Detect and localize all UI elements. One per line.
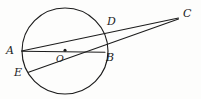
figure-canvas xyxy=(0,0,201,99)
point-label-a: A xyxy=(6,45,14,56)
center-point-dot xyxy=(64,49,67,52)
geometry-figure: A B C D E O xyxy=(0,0,201,99)
point-label-o: O xyxy=(56,54,64,64)
point-label-d: D xyxy=(107,16,116,27)
segment-ebc-secant xyxy=(29,19,179,72)
point-label-c: C xyxy=(183,8,191,19)
point-label-e: E xyxy=(14,67,22,78)
segment-adc-secant xyxy=(22,18,179,51)
point-label-b: B xyxy=(106,52,114,63)
